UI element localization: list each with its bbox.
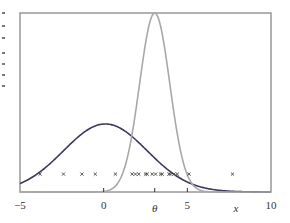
cross-marker-icon [176, 173, 179, 176]
tick-label: 10 [266, 199, 278, 211]
curves [20, 13, 271, 192]
cross-marker-icon [80, 173, 83, 176]
cross-marker-icon [114, 173, 117, 176]
tick-label: −5 [14, 199, 26, 211]
cross-marker-icon [137, 173, 140, 176]
tick-label: 5 [185, 199, 191, 211]
cross-marker-icon [154, 173, 157, 176]
cross-marker-icon [131, 173, 134, 176]
tick-label: x [232, 202, 238, 214]
cross-marker-icon [38, 173, 41, 176]
narrow-curve [20, 13, 271, 192]
cross-marker-icon [62, 173, 65, 176]
left-clipped-text [2, 12, 5, 87]
broad-curve [20, 124, 271, 192]
observation-markers [38, 173, 234, 176]
cross-marker-icon [231, 173, 234, 176]
tick-label: θ [152, 202, 158, 214]
chart: −50θ5x10 [0, 0, 290, 223]
cross-marker-icon [94, 173, 97, 176]
tick-label: 0 [101, 199, 107, 211]
cross-marker-icon [151, 173, 154, 176]
cross-marker-icon [134, 173, 137, 176]
